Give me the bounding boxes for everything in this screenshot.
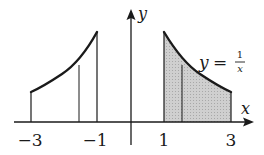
equation-label: y = 1 x: [198, 49, 245, 74]
x-axis-label: x: [241, 99, 250, 118]
tick-label-3: 3: [226, 130, 237, 150]
equation-numerator: 1: [237, 49, 243, 60]
tick-label-1: 1: [159, 130, 170, 150]
equation-lhs: y: [198, 52, 209, 72]
tick-label-neg3: −3: [17, 130, 42, 150]
equation-equals: =: [213, 52, 227, 72]
equation-denominator: x: [237, 63, 243, 74]
tick-label-neg1: −1: [82, 130, 107, 150]
y-axis-label: y: [137, 4, 148, 23]
left-curve: [31, 32, 97, 92]
function-diagram: −3 −1 1 3 y x y = 1 x: [0, 0, 264, 155]
